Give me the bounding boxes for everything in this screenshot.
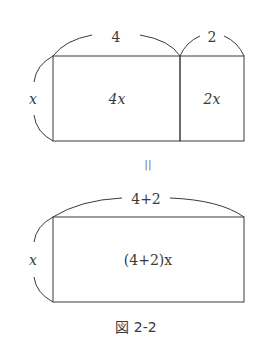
brace-x-bottom-arc bbox=[34, 115, 53, 141]
area-diagram: 4 2 x 4x 2x || 4+2 x (4+2)x 図 2-2 bbox=[0, 0, 262, 356]
top-width-label-4: 4 bbox=[112, 29, 121, 45]
brace-x-bottom-arc-bottom bbox=[34, 277, 53, 302]
bottom-figure bbox=[34, 198, 244, 302]
brace-x-top-arc-bottom bbox=[34, 217, 53, 242]
figure-caption: 図 2-2 bbox=[115, 319, 156, 335]
top-figure bbox=[34, 35, 244, 141]
bottom-width-label: 4+2 bbox=[131, 191, 161, 207]
brace-4-right-arc bbox=[140, 35, 180, 56]
top-width-label-2: 2 bbox=[208, 29, 217, 45]
bottom-height-label-x: x bbox=[29, 252, 37, 268]
brace-x-top-arc bbox=[34, 56, 53, 82]
brace-2-left-arc bbox=[180, 36, 200, 56]
top-area-left: 4x bbox=[108, 91, 126, 107]
top-area-right: 2x bbox=[203, 91, 221, 107]
equals-sign: || bbox=[144, 158, 151, 171]
brace-4-left-arc bbox=[53, 35, 92, 56]
brace-2-right-arc bbox=[224, 36, 244, 56]
brace-sum-right-arc bbox=[170, 198, 244, 217]
bottom-area: (4+2)x bbox=[124, 252, 172, 268]
top-height-label-x: x bbox=[29, 91, 37, 107]
brace-sum-left-arc bbox=[53, 198, 122, 217]
